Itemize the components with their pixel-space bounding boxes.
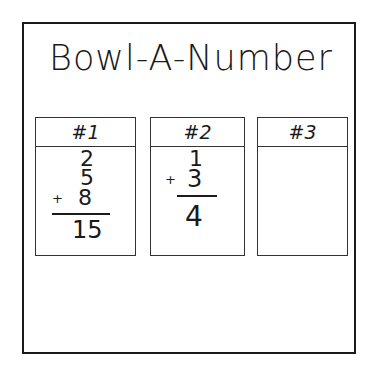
- sum: 15: [72, 219, 103, 241]
- addend: 3: [187, 168, 202, 190]
- card-label: #3: [258, 118, 347, 147]
- frame-card-2: #2 1 + 3 4: [150, 117, 245, 256]
- frame-card-3: #3: [257, 117, 348, 256]
- worksheet-title: Bowl-A-Number: [0, 38, 382, 78]
- frame-card-1: #1 2 5 + 8 15: [35, 117, 136, 256]
- plus-sign: +: [165, 172, 176, 187]
- card-label: #2: [151, 118, 244, 147]
- plus-sign: +: [52, 191, 63, 206]
- card-body: 2 5 + 8 15: [36, 147, 135, 255]
- sum-line: [177, 195, 217, 197]
- sum-line: [52, 213, 110, 215]
- card-label: #1: [36, 118, 135, 147]
- sum: 4: [185, 203, 203, 231]
- card-body: 1 + 3 4: [151, 147, 244, 255]
- card-body-empty: [258, 147, 347, 255]
- addend: 8: [78, 187, 92, 209]
